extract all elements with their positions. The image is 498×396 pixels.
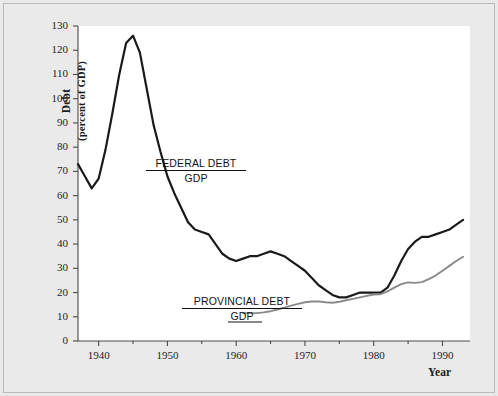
x-tick-label: 1970: [282, 349, 328, 361]
y-tick-label: 120: [38, 43, 68, 55]
y-tick-label: 100: [38, 92, 68, 104]
y-tick-label: 20: [38, 286, 68, 298]
x-tick-label: 1980: [351, 349, 397, 361]
y-tick-label: 0: [38, 334, 68, 346]
federal-debt-line: [78, 36, 463, 298]
x-axis-title: Year: [428, 366, 451, 378]
chart-figure: Debt (percent of GDP) Year 1301201101009…: [0, 0, 498, 396]
federal-series-label: FEDERAL DEBT GDP: [146, 157, 246, 184]
y-tick-label: 90: [38, 116, 68, 128]
y-tick-label: 10: [38, 310, 68, 322]
provincial-legend-line-swatch: [228, 321, 262, 323]
provincial-series-numerator: PROVINCIAL DEBT: [182, 295, 302, 309]
y-tick-label: 70: [38, 164, 68, 176]
y-tick-label: 130: [38, 19, 68, 31]
y-tick-label: 110: [38, 67, 68, 79]
y-tick-label: 50: [38, 213, 68, 225]
y-tick-label: 80: [38, 140, 68, 152]
y-axis-title-line2: (percent of GDP): [76, 61, 87, 141]
x-tick-label: 1950: [144, 349, 190, 361]
provincial-series-label: PROVINCIAL DEBT GDP: [182, 295, 302, 322]
x-tick-label: 1990: [419, 349, 465, 361]
y-tick-label: 30: [38, 261, 68, 273]
y-tick-label: 60: [38, 189, 68, 201]
federal-series-numerator: FEDERAL DEBT: [146, 157, 246, 171]
y-tick-label: 40: [38, 237, 68, 249]
federal-series-denominator: GDP: [146, 171, 246, 184]
x-tick-label: 1960: [213, 349, 259, 361]
x-tick-label: 1940: [76, 349, 122, 361]
